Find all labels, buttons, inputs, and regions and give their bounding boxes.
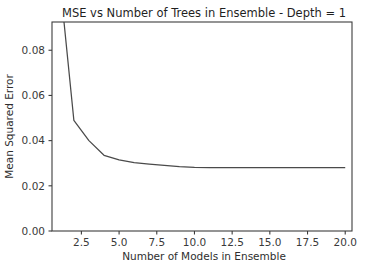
y-tick-label: 0.06 [22,89,46,101]
chart-figure: MSE vs Number of Trees in Ensemble - Dep… [0,0,368,268]
chart-title: MSE vs Number of Trees in Ensemble - Dep… [62,6,346,20]
x-tick-label: 15.0 [258,236,281,248]
plot-area-background [52,22,352,231]
y-tick-label: 0.04 [22,134,46,146]
mse-line-chart: MSE vs Number of Trees in Ensemble - Dep… [0,0,368,268]
x-tick-label: 17.5 [296,236,319,248]
x-axis-title: Number of Models in Ensemble [122,250,286,262]
x-tick-label: 2.5 [73,236,90,248]
y-tick-label: 0.00 [22,225,45,237]
x-tick-label: 7.5 [148,236,165,248]
x-tick-label: 12.5 [220,236,243,248]
x-tick-label: 10.0 [183,236,206,248]
x-tick-label: 20.0 [334,236,357,248]
y-tick-label: 0.08 [22,44,45,56]
y-axis-title: Mean Squared Error [3,74,15,179]
y-tick-label: 0.02 [22,180,45,192]
x-tick-label: 5.0 [111,236,128,248]
